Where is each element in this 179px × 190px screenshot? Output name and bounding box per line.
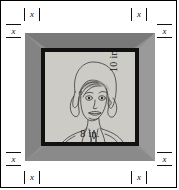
frame-rail-right (137, 33, 155, 161)
x-label-bottom-left: x (24, 171, 40, 184)
x-label-left-bottom: x (6, 152, 21, 166)
x-label-text: x (25, 8, 39, 21)
x-label-left-top: x (6, 24, 21, 38)
picture-frame-diagram: 8 in. 10 in. x x x x x x x x (0, 0, 179, 190)
x-label-top-right: x (131, 8, 147, 21)
x-label-right-top: x (157, 24, 172, 38)
x-label-bottom-right: x (131, 171, 147, 184)
photo-height-label: 10 in. (108, 47, 119, 72)
x-label-text: x (132, 171, 146, 184)
x-label-text: x (163, 153, 167, 165)
x-label-text: x (12, 153, 16, 165)
x-label-right-bottom: x (157, 152, 172, 166)
x-label-text: x (163, 25, 167, 37)
x-label-text: x (132, 8, 146, 21)
photo-width-label: 8 in. (45, 128, 135, 139)
x-label-text: x (25, 171, 39, 184)
x-label-top-left: x (24, 8, 40, 21)
x-label-text: x (12, 25, 16, 37)
